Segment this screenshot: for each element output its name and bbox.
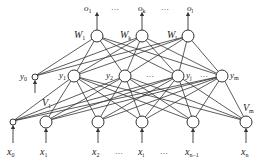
hidden-node-1 [68,70,80,82]
svg-text:…: … [111,3,119,12]
svg-text:Wl: Wl [167,29,177,41]
output-node-1 [91,30,103,42]
output-node-k [136,30,148,42]
input-node-1 [40,116,52,128]
svg-text:…: … [200,70,208,79]
input-node-i [136,116,148,128]
input-node-n [240,116,252,128]
input-node-2 [92,116,104,128]
svg-text:x0: x0 [6,146,14,158]
output-arrows [97,14,188,30]
svg-text:ok: ok [138,3,146,14]
svg-text:x1: x1 [39,146,47,158]
output-layer [91,30,194,42]
svg-text:…: … [115,147,123,156]
hidden-node-2 [119,70,131,82]
output-labels: o1 … ok … ol [84,3,194,14]
input-layer [10,116,252,128]
hidden-node-j [172,70,184,82]
input-node-n-1 [187,116,199,128]
input-labels: x0 x1 x2 … xi … xn−1 xn [6,146,248,158]
svg-text:…: … [146,70,154,79]
neural-network-diagram: o1 … ok … ol W1 Wk Wl y0 y1 y2 … yj … ym… [0,0,262,161]
svg-text:ym: ym [229,70,239,81]
svg-text:V1: V1 [42,97,51,109]
svg-text:x2: x2 [91,146,99,158]
svg-text:ol: ol [187,3,194,14]
output-weight-labels: W1 Wk Wl [74,29,177,41]
svg-text:xn: xn [240,146,248,158]
svg-text:yj: yj [185,70,192,81]
svg-text:xi: xi [137,146,144,158]
hidden-node-m [216,70,228,82]
svg-text:y0: y0 [19,71,27,82]
svg-text:Vm: Vm [243,102,254,114]
svg-text:y2: y2 [105,70,113,81]
svg-text:y1: y1 [58,70,66,81]
svg-text:…: … [161,3,169,12]
output-node-l [182,30,194,42]
svg-text:Wk: Wk [120,29,131,41]
svg-text:W1: W1 [74,29,85,41]
svg-text:xn−1: xn−1 [184,146,199,158]
svg-text:o1: o1 [84,3,92,14]
hidden-bias-node [32,74,38,80]
svg-text:…: … [160,147,168,156]
input-arrows [13,127,246,143]
input-bias-node [10,119,16,125]
hidden-output-edges [35,36,222,76]
